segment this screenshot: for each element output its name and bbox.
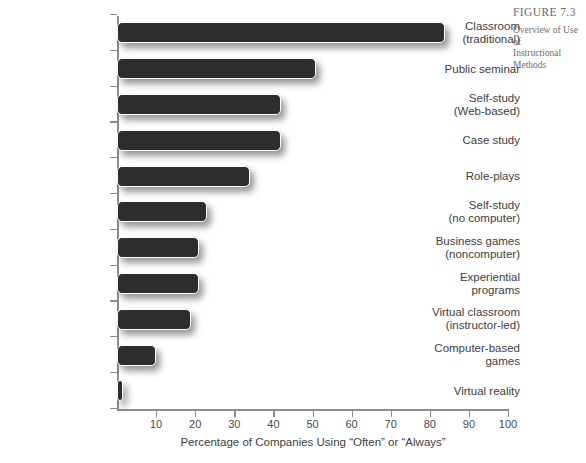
- figure-root: FIGURE 7.3 Overview of Use of Instructio…: [0, 0, 586, 463]
- bar: [117, 309, 191, 330]
- bar-fill: [117, 22, 445, 43]
- bar-fill: [117, 237, 199, 258]
- figure-number: FIGURE 7.3: [513, 6, 585, 18]
- bar-fill: [117, 58, 316, 79]
- bar: [117, 94, 281, 115]
- source-note-clipped: [60, 459, 530, 463]
- bar-series: [0, 0, 520, 463]
- bar-fill: [117, 130, 281, 151]
- chart-plot-area: 102030405060708090100 Classroom(traditio…: [0, 0, 520, 463]
- bar: [117, 201, 207, 222]
- bar: [117, 273, 199, 294]
- bar: [117, 237, 199, 258]
- x-axis-title: Percentage of Companies Using “Often” or…: [117, 436, 509, 448]
- bar-fill: [117, 94, 281, 115]
- figure-caption-text: Overview of Use of Instructional Methods: [513, 25, 585, 71]
- bar-fill: [117, 273, 199, 294]
- bar-fill: [117, 201, 207, 222]
- figure-caption: FIGURE 7.3 Overview of Use of Instructio…: [513, 6, 585, 71]
- bar: [117, 58, 316, 79]
- bar: [117, 130, 281, 151]
- bar-fill: [117, 345, 156, 366]
- figure-caption-line-1: Overview of Use of: [513, 25, 578, 47]
- bar: [117, 380, 123, 401]
- bar: [117, 345, 156, 366]
- bar: [117, 22, 445, 43]
- bar-fill: [117, 380, 123, 401]
- bar-fill: [117, 309, 191, 330]
- bar-fill: [117, 166, 250, 187]
- figure-caption-line-2: Instructional Methods: [513, 48, 561, 70]
- bar: [117, 166, 250, 187]
